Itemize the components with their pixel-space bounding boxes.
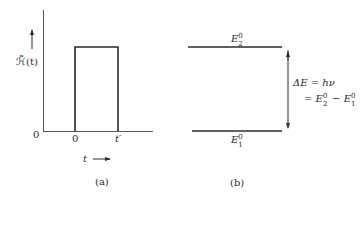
x-tick-start: 0 (72, 134, 78, 144)
y-axis-label: ℋ̃(t) (16, 57, 38, 67)
gap-lower-indices: 01 (351, 94, 357, 104)
minus-sign: − (332, 93, 340, 104)
upper-level-label: E02 (231, 34, 244, 44)
gap-lower-sub: 1 (351, 99, 355, 109)
equals-sign: = (304, 93, 312, 104)
gap-lower-symbol: E (344, 93, 351, 104)
panel-b-caption: (b) (230, 178, 244, 188)
lower-level-sub: 1 (238, 140, 242, 150)
energy-gap-line1: ΔE = hν (293, 78, 335, 88)
upper-level-indices: 02 (238, 34, 244, 44)
gap-upper-sub: 2 (323, 99, 327, 109)
upper-level-symbol: E (231, 33, 238, 44)
lower-level-symbol: E (231, 134, 238, 145)
gap-upper-indices: 02 (323, 94, 329, 104)
lower-level-indices: 01 (238, 135, 244, 145)
gap-upper-symbol: E (316, 93, 323, 104)
upper-level-sub: 2 (238, 39, 242, 49)
y-axis-label-text: ℋ̃(t) (16, 56, 38, 67)
x-axis-label: t (83, 154, 87, 164)
y-origin-label: 0 (33, 130, 39, 140)
pulse-curve (75, 47, 118, 131)
panel-a-caption: (a) (95, 177, 109, 187)
lower-level-label: E01 (231, 135, 244, 145)
x-tick-end: t′ (115, 134, 121, 144)
energy-gap-line2: = E02 − E01 (304, 94, 357, 104)
